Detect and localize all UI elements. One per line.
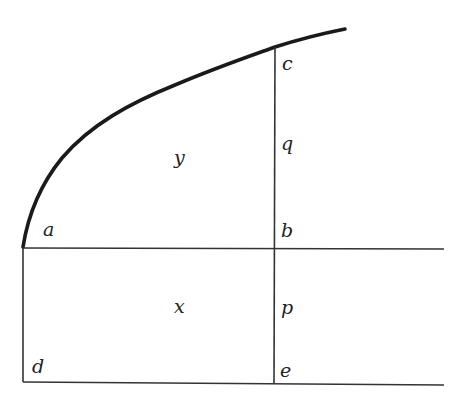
label-b: b <box>281 219 293 241</box>
line-ce <box>274 47 275 384</box>
diagram-canvas: c q y a b x p d e <box>0 0 464 410</box>
label-x: x <box>174 295 185 317</box>
line-de <box>23 382 444 385</box>
label-d: d <box>32 355 44 377</box>
line-ab <box>23 248 444 249</box>
label-y: y <box>173 146 185 168</box>
label-p: p <box>281 296 293 318</box>
label-e: e <box>280 359 291 381</box>
label-a: a <box>43 218 54 240</box>
label-c: c <box>282 52 293 74</box>
curve <box>23 29 345 247</box>
label-q: q <box>281 132 293 154</box>
